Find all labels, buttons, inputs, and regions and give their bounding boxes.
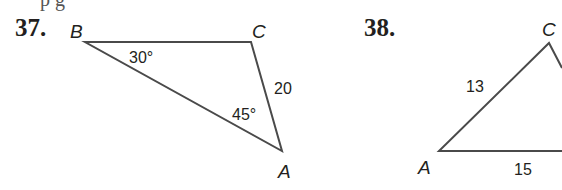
side-CA-label: 20 <box>274 80 292 97</box>
side-AB-label: 15 <box>514 161 532 178</box>
angle-A-label: 45° <box>232 106 256 123</box>
vertex-B-label: B <box>70 21 83 42</box>
vertex-C-label: C <box>252 21 266 42</box>
side-AC-label: 13 <box>466 78 484 95</box>
triangle-37-shape <box>85 42 282 151</box>
triangle-38-shape <box>439 43 562 151</box>
vertex-A-label: A <box>277 161 291 182</box>
triangle-38: C A 13 15 <box>417 19 562 178</box>
vertex-C-label: C <box>542 19 556 40</box>
triangle-37: B C A 30° 45° 20 <box>70 21 292 182</box>
vertex-A-label: A <box>417 157 431 178</box>
textbook-page: p g 37. 38. B C A 30° 45° 20 C A 13 15 <box>0 0 562 190</box>
angle-B-label: 30° <box>129 49 153 66</box>
triangle-figures: B C A 30° 45° 20 C A 13 15 <box>0 0 562 190</box>
